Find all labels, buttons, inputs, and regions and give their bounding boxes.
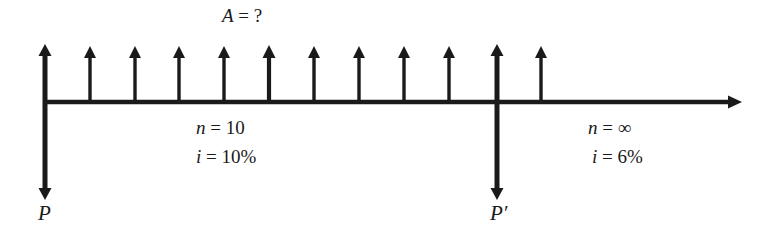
right-interest-label: i = 6% [592, 147, 643, 166]
up-arrow-icon [443, 46, 455, 58]
left-n-value: = 10 [210, 117, 244, 138]
up-arrow-icon [491, 44, 504, 56]
up-arrow-4 [173, 46, 185, 102]
annuity-symbol: A [222, 5, 234, 26]
up-arrow-5 [218, 46, 230, 102]
right-period-label: n = ∞ [588, 118, 631, 137]
up-arrow-icon [39, 44, 52, 56]
up-arrow-icon [535, 46, 547, 58]
up-arrow-10 [443, 46, 455, 102]
down-arrow-icon [39, 188, 52, 200]
left-period-label: n = 10 [196, 118, 245, 137]
present-worth-p-arrow [39, 44, 52, 200]
down-arrow-icon [491, 188, 504, 200]
timeline-axis [45, 96, 742, 109]
uniform-series-arrows [84, 45, 547, 102]
right-arrow-icon [728, 96, 742, 109]
up-arrow-7 [308, 46, 320, 102]
left-n-symbol: n [196, 117, 206, 138]
right-i-value: = 6% [602, 146, 643, 167]
annuity-label: A = ? [222, 6, 262, 25]
up-arrow-12 [535, 46, 547, 102]
right-n-symbol: n [588, 117, 598, 138]
up-arrow-icon [218, 46, 230, 58]
up-arrow-icon [353, 46, 365, 58]
cash-flow-svg [0, 0, 773, 240]
cash-flow-diagram: A = ? n = 10 i = 10% n = ∞ i = 6% P P′ [0, 0, 773, 240]
left-interest-label: i = 10% [196, 147, 256, 166]
right-n-value: = ∞ [602, 117, 631, 138]
present-worth-pprime-arrow [491, 44, 504, 200]
up-arrow-3 [129, 46, 141, 102]
up-arrow-9 [398, 46, 410, 102]
p-label: P [38, 203, 51, 224]
up-arrow-icon [398, 46, 410, 58]
up-arrow-6 [263, 45, 276, 102]
up-arrow-8 [353, 46, 365, 102]
up-arrow-icon [173, 46, 185, 58]
up-arrow-icon [308, 46, 320, 58]
annuity-value: = ? [238, 5, 262, 26]
up-arrow-icon [129, 46, 141, 58]
up-arrow-2 [84, 46, 96, 102]
up-arrow-icon [263, 45, 276, 58]
left-i-value: = 10% [206, 146, 256, 167]
up-arrow-icon [84, 46, 96, 58]
pprime-label: P′ [490, 203, 507, 224]
